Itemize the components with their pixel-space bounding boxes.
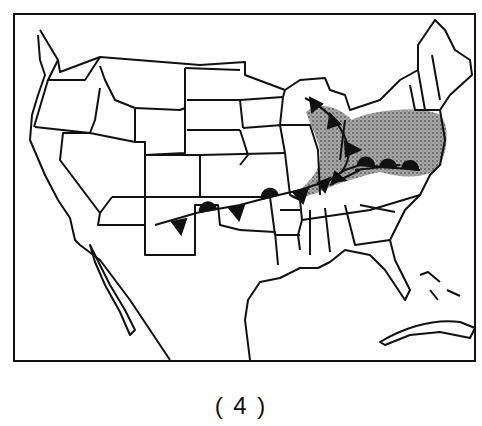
weather-map: [0, 0, 482, 380]
warm-front-semicircle: [380, 159, 396, 168]
figure-caption: ( 4 ): [0, 392, 482, 420]
warm-front-semicircle: [358, 157, 374, 166]
warm-front-semicircle: [402, 161, 418, 170]
